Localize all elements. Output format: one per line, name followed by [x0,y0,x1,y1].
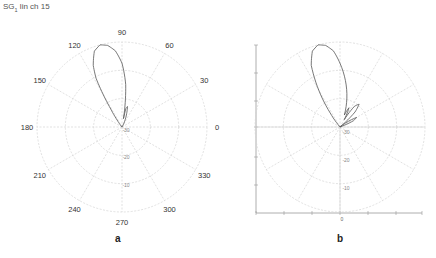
panel-label-b: b [337,233,343,244]
grid-spoke [266,85,340,128]
angle-tick-label: 240 [68,205,81,214]
angle-tick-label: 180 [21,123,34,132]
angle-tick-label: 150 [33,76,46,85]
grid-spoke [340,127,414,170]
angle-tick-label: 30 [200,76,208,85]
angle-tick-label: 90 [118,28,126,37]
grid-spoke [340,85,414,128]
grid-spoke [48,85,122,128]
figure: 0306090120150180210240270300330-30-20-10… [0,0,436,258]
angle-tick-label: 300 [163,205,176,214]
radial-tick-label: -10 [342,185,349,191]
radial-tick-label: -10 [122,182,129,188]
grid-spoke [48,127,122,170]
grid-spoke [298,127,341,201]
angle-tick-label: 210 [33,171,46,180]
grid-spoke [122,127,196,170]
grid-spoke [122,85,196,128]
x-tick-label: 0 [341,216,344,222]
angle-tick-label: 0 [215,123,219,132]
radial-tick-label: -20 [122,154,129,160]
grid-spoke [266,127,340,170]
angle-tick-label: 330 [198,171,211,180]
radial-tick-label: -20 [342,157,349,163]
radial-tick-label: -30 [122,127,129,133]
angle-tick-label: 120 [68,41,81,50]
angle-tick-label: 60 [165,41,173,50]
angle-tick-label: 270 [116,218,129,227]
grid-spoke [122,127,165,201]
polar-chart-b: -30-20-100 [254,42,425,222]
grid-spoke [80,127,123,201]
radial-tick-label: -30 [342,129,349,135]
grid-spoke [122,53,165,127]
polar-chart-a: 0306090120150180210240270300330-30-20-10 [21,28,219,227]
panel-label-a: a [115,233,121,244]
